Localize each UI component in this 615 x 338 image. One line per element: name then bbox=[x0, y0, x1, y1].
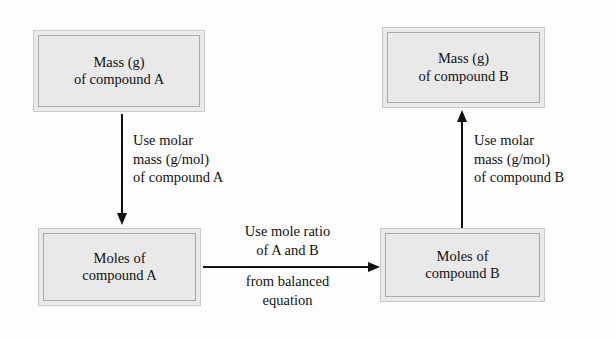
node-mass-compound-a-line2: of compound A bbox=[74, 71, 164, 88]
edge-label-mass-a-line3: of compound A bbox=[133, 168, 223, 187]
edge-label-mass-b-line3: of compound B bbox=[474, 168, 564, 187]
node-moles-compound-a-body: Moles of compound A bbox=[43, 233, 196, 301]
arrow-moles-a-to-moles-b-head-icon bbox=[368, 262, 380, 272]
node-moles-compound-b-line2: compound B bbox=[425, 265, 500, 282]
edge-label-ratio-line1: Use mole ratio bbox=[205, 222, 370, 241]
node-mass-compound-b: Mass (g) of compound B bbox=[382, 27, 545, 108]
arrow-mass-a-to-moles-a-head-icon bbox=[117, 213, 127, 225]
diagram-canvas: Mass (g) of compound A Mass (g) of compo… bbox=[0, 0, 615, 338]
node-moles-compound-a: Moles of compound A bbox=[38, 228, 201, 306]
arrow-mass-a-to-moles-a-shaft bbox=[121, 114, 123, 214]
node-mass-compound-b-line2: of compound B bbox=[418, 68, 508, 85]
edge-label-mass-a-line1: Use molar bbox=[133, 131, 223, 150]
node-mass-compound-a: Mass (g) of compound A bbox=[33, 30, 205, 112]
arrow-moles-b-to-mass-b-head-icon bbox=[457, 110, 467, 122]
edge-label-mass-a-to-moles-a: Use molar mass (g/mol) of compound A bbox=[133, 131, 223, 187]
edge-label-mass-b-line1: Use molar bbox=[474, 131, 564, 150]
node-mass-compound-b-line1: Mass (g) bbox=[438, 50, 489, 67]
node-moles-compound-a-line1: Moles of bbox=[94, 250, 146, 267]
arrow-moles-a-to-moles-b-shaft bbox=[203, 266, 369, 268]
node-moles-compound-b: Moles of compound B bbox=[380, 228, 545, 302]
node-moles-compound-b-body: Moles of compound B bbox=[385, 233, 540, 297]
node-mass-compound-a-body: Mass (g) of compound A bbox=[38, 35, 200, 107]
node-moles-compound-b-line1: Moles of bbox=[437, 248, 489, 265]
node-moles-compound-a-line2: compound A bbox=[82, 267, 157, 284]
edge-label-moles-a-to-moles-b-above: Use mole ratio of A and B bbox=[205, 222, 370, 259]
edge-label-mass-a-line2: mass (g/mol) bbox=[133, 150, 223, 169]
node-mass-compound-a-line1: Mass (g) bbox=[93, 54, 144, 71]
edge-label-ratio-line2: of A and B bbox=[205, 241, 370, 260]
edge-label-moles-b-to-mass-b: Use molar mass (g/mol) of compound B bbox=[474, 131, 564, 187]
node-mass-compound-b-body: Mass (g) of compound B bbox=[387, 32, 540, 103]
edge-label-balanced-line2: equation bbox=[205, 291, 370, 310]
edge-label-moles-a-to-moles-b-below: from balanced equation bbox=[205, 272, 370, 309]
arrow-moles-b-to-mass-b-shaft bbox=[461, 122, 463, 228]
edge-label-balanced-line1: from balanced bbox=[205, 272, 370, 291]
edge-label-mass-b-line2: mass (g/mol) bbox=[474, 150, 564, 169]
